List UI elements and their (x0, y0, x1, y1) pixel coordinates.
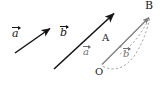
free-vector-b-label: b (60, 27, 67, 38)
free-vector-a-label: a (12, 28, 19, 39)
vector-diagram-canvas (0, 0, 166, 87)
point-A-marker (119, 45, 121, 47)
vector-arrow-bar-b-ab (123, 48, 130, 49)
point-label-O: O (95, 67, 103, 77)
segment-OA-vector-a-label: a (83, 47, 89, 57)
vector-arrow-bar-a-oa (83, 46, 90, 47)
point-label-B: B (145, 0, 153, 11)
segment-AB-vector-b-label: b (123, 49, 129, 59)
point-label-A: A (102, 33, 109, 43)
vector-arrow-bar-a-free (12, 27, 20, 28)
vector-arrow-bar-b-free (60, 26, 68, 27)
